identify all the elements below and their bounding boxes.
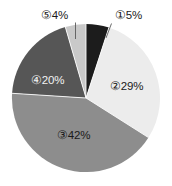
pie-label-slice-4: ④20%: [31, 74, 64, 86]
pie-chart: ⑤4% ①5% ②29% ③42% ④20%: [0, 0, 172, 186]
pie-label-slice-5: ⑤4%: [41, 9, 68, 21]
pie-chart-canvas: ⑤4% ①5% ②29% ③42% ④20%: [0, 0, 172, 186]
pie-label-slice-2: ②29%: [110, 80, 143, 92]
pie-label-slice-1: ①5%: [115, 9, 142, 21]
pie-label-slice-3: ③42%: [57, 129, 90, 141]
